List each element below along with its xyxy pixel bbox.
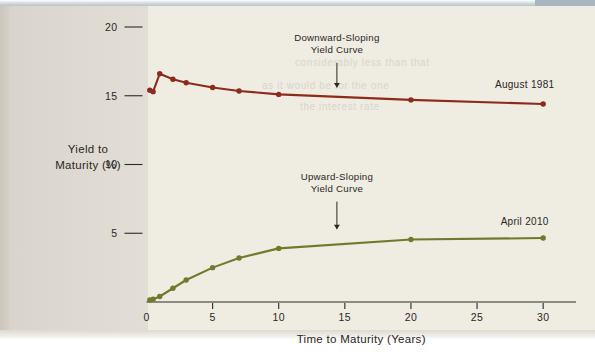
- series-data-point: [157, 294, 162, 299]
- series-data-point: [276, 92, 281, 97]
- series-data-point: [210, 265, 215, 270]
- y-axis-tick-label: 20: [105, 21, 117, 33]
- series-data-point: [170, 77, 175, 82]
- annotation-text-line1: Downward-Sloping: [294, 32, 379, 43]
- series-data-point: [157, 71, 162, 76]
- x-axis-tick-label: 10: [272, 311, 284, 323]
- series-line: [150, 238, 543, 300]
- series-data-point: [210, 85, 215, 90]
- x-axis-tick-label: 0: [143, 311, 149, 323]
- yield-curve-figure: considerably less than that as it would …: [0, 0, 595, 364]
- series-data-point: [183, 80, 188, 85]
- annotations-group: Downward-SlopingYield CurveUpward-Slopin…: [294, 32, 379, 229]
- series-data-point: [236, 88, 241, 93]
- series-label: August 1981: [495, 79, 555, 90]
- annotation-arrow-head: [334, 225, 340, 230]
- chart-svg: 0510152025305101520 August 1981April 201…: [0, 0, 595, 364]
- y-axis-title-line2: Maturity (%): [55, 159, 121, 171]
- annotation-text-line1: Upward-Sloping: [301, 171, 373, 182]
- series-data-point: [540, 101, 545, 106]
- series-data-point: [408, 97, 413, 102]
- annotation-text-line2: Yield Curve: [311, 44, 363, 55]
- x-axis-title: Time to Maturity (Years): [297, 333, 426, 345]
- series-data-point: [150, 297, 155, 302]
- series-line: [150, 74, 543, 104]
- annotation-text-line2: Yield Curve: [311, 183, 363, 194]
- y-axis-tick-label: 5: [111, 227, 117, 239]
- series-label: April 2010: [501, 216, 549, 227]
- series-data-point: [236, 255, 241, 260]
- x-axis-tick-label: 30: [537, 311, 549, 323]
- series-data-point: [150, 89, 155, 94]
- series-data-point: [540, 235, 545, 240]
- series-data-point: [276, 246, 281, 251]
- series-data-point: [183, 277, 188, 282]
- series-data-point: [170, 286, 175, 291]
- x-axis-tick-label: 25: [471, 311, 483, 323]
- annotation-arrow-head: [334, 83, 340, 88]
- x-axis-tick-label: 15: [339, 311, 351, 323]
- x-axis-tick-label: 5: [209, 311, 215, 323]
- y-axis-tick-label: 15: [105, 90, 117, 102]
- x-axis-tick-label: 20: [405, 311, 417, 323]
- series-data-point: [408, 237, 413, 242]
- y-axis-title-line1: Yield to: [68, 143, 108, 155]
